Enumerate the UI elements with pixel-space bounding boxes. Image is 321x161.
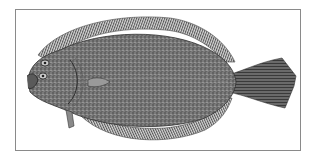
tail-fin	[228, 58, 296, 108]
flounder-illustration	[0, 0, 321, 161]
